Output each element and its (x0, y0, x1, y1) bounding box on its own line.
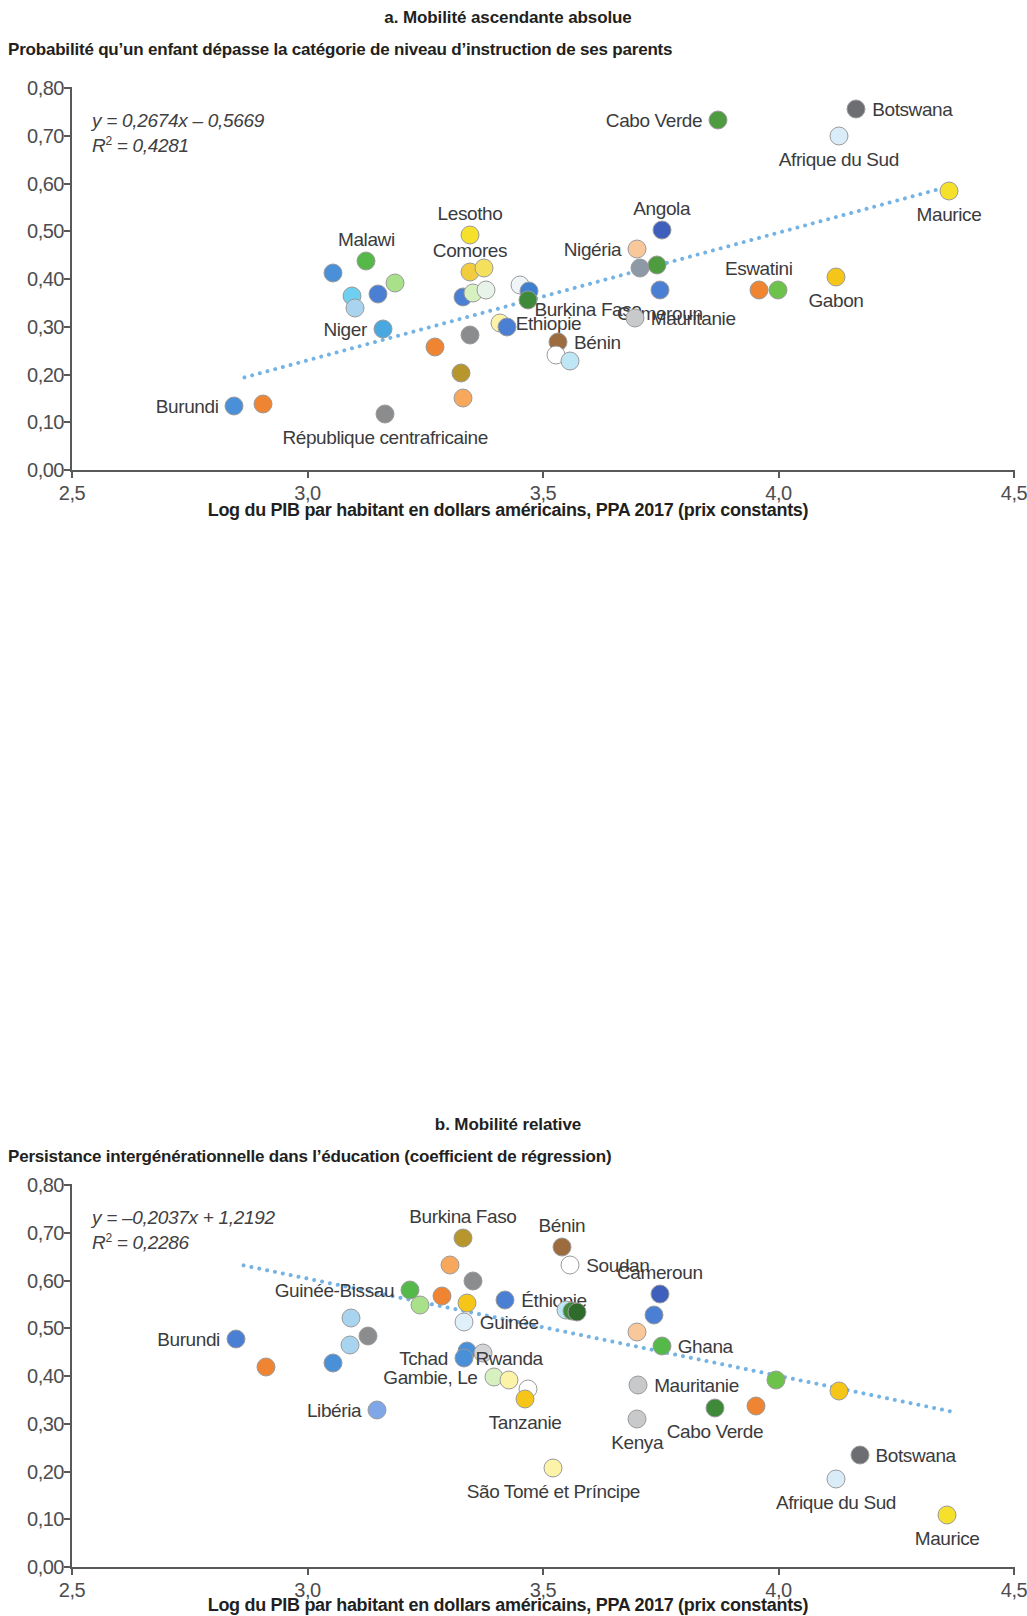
data-point-burundi[interactable] (226, 1329, 245, 1348)
point-label-maurice: Maurice (915, 1529, 980, 1548)
data-point-b-27[interactable] (567, 1302, 586, 1321)
point-label-guin-e: Guinée (480, 1313, 539, 1332)
data-point-b-37[interactable] (767, 1370, 786, 1389)
data-point-maurice[interactable] (940, 181, 959, 200)
data-point-a-30[interactable] (647, 255, 666, 274)
y-tick-mark-a-6 (64, 374, 72, 376)
point-label-s-o-tom-et-pr-ncipe: São Tomé et Príncipe (467, 1481, 640, 1500)
data-point-b-3[interactable] (341, 1308, 360, 1327)
data-point-b-36[interactable] (746, 1396, 765, 1415)
y-tick-label-a-7: 0,10 (2, 411, 64, 434)
x-tick-mark-a-4 (1013, 470, 1015, 478)
data-point-b-10[interactable] (440, 1256, 459, 1275)
data-point-cameroun[interactable] (650, 280, 669, 299)
data-point-burkina-faso[interactable] (453, 1228, 472, 1247)
data-point-s-o-tom-et-pr-ncipe[interactable] (544, 1458, 563, 1477)
data-point-a-24[interactable] (518, 291, 537, 310)
data-point-a-19[interactable] (460, 325, 479, 344)
data-point-kenya[interactable] (628, 1409, 647, 1428)
point-label-botswana: Botswana (872, 99, 952, 118)
y-tick-mark-b-3 (64, 1327, 72, 1329)
data-point-b-6[interactable] (358, 1327, 377, 1346)
data-point-b-8[interactable] (410, 1296, 429, 1315)
data-point-a-15[interactable] (475, 259, 494, 278)
data-point-a-10[interactable] (425, 338, 444, 357)
data-point-b-33[interactable] (644, 1305, 663, 1324)
data-point-botswana[interactable] (847, 99, 866, 118)
x-tick-mark-a-1 (307, 470, 309, 478)
y-tick-label-a-3: 0,50 (2, 220, 64, 243)
y-tick-label-b-7: 0,10 (2, 1508, 64, 1531)
data-point-a-29[interactable] (630, 259, 649, 278)
data-point-rwanda[interactable] (500, 1370, 519, 1389)
data-point-a-27[interactable] (561, 352, 580, 371)
data-point-burundi[interactable] (225, 396, 244, 415)
point-label-b-nin: Bénin (574, 333, 621, 352)
data-point-b-29[interactable] (628, 1323, 647, 1342)
point-label-burkina-faso: Burkina Faso (409, 1206, 516, 1225)
data-point-a-3[interactable] (324, 264, 343, 283)
y-tick-mark-a-2 (64, 183, 72, 185)
panel-mobilite-relative: b. Mobilité relative Persistance intergé… (0, 545, 1016, 1081)
data-point-maurice[interactable] (938, 1506, 957, 1525)
data-point-eswatini[interactable] (749, 280, 768, 299)
data-point-afrique-du-sud[interactable] (829, 126, 848, 145)
data-point-a-36[interactable] (768, 280, 787, 299)
data-point-a-1[interactable] (253, 395, 272, 414)
point-label-mauritanie: Mauritanie (654, 1375, 739, 1394)
data-point-lib-ria[interactable] (368, 1401, 387, 1420)
data-point-mauritanie[interactable] (625, 309, 644, 328)
data-point-b-4[interactable] (340, 1335, 359, 1354)
point-label-burundi: Burundi (157, 1329, 220, 1348)
data-point-angola[interactable] (652, 220, 671, 239)
data-point-a-5[interactable] (345, 298, 364, 317)
data-point-cabo-verde[interactable] (705, 1399, 724, 1418)
data-point-r-publique-centrafricaine[interactable] (376, 404, 395, 423)
data-point-cameroun[interactable] (650, 1284, 669, 1303)
data-point-malawi[interactable] (357, 252, 376, 271)
data-point-a-7[interactable] (385, 273, 404, 292)
data-point-b-9[interactable] (432, 1286, 451, 1305)
data-point-cabo-verde[interactable] (709, 110, 728, 129)
data-point-mauritanie[interactable] (629, 1375, 648, 1394)
data-point-b-12[interactable] (464, 1272, 483, 1291)
data-point--thiopie[interactable] (496, 1290, 515, 1309)
x-axis-title-a: Log du PIB par habitant en dollars améri… (0, 500, 1016, 521)
data-point-afrique-du-sud[interactable] (826, 1469, 845, 1488)
regression-equation-b: y = –0,2037x + 1,2192 (92, 1207, 275, 1229)
data-point-a-18[interactable] (477, 280, 496, 299)
x-tick-mark-a-3 (778, 470, 780, 478)
y-tick-mark-b-1 (64, 1232, 72, 1234)
y-tick-mark-b-4 (64, 1375, 72, 1377)
data-point-ghana[interactable] (652, 1337, 671, 1356)
point-label-afrique-du-sud: Afrique du Sud (776, 1492, 896, 1511)
data-point-b-38[interactable] (829, 1382, 848, 1401)
data-point-a-11[interactable] (451, 364, 470, 383)
y-tick-mark-b-0 (64, 1184, 72, 1186)
point-label-lesotho: Lesotho (438, 204, 503, 223)
data-point-a-6[interactable] (369, 285, 388, 304)
data-point-b-1[interactable] (257, 1358, 276, 1377)
r-squared-b: R2 = 0,2286 (92, 1231, 189, 1254)
data-point-a-21[interactable] (497, 317, 516, 336)
data-point-guin-e[interactable] (454, 1313, 473, 1332)
x-axis-title-b: Log du PIB par habitant en dollars améri… (0, 1595, 1016, 1616)
data-point-b-nin[interactable] (552, 1238, 571, 1257)
data-point-botswana[interactable] (850, 1445, 869, 1464)
data-point-a-12[interactable] (453, 389, 472, 408)
data-point-tanzanie[interactable] (516, 1389, 535, 1408)
data-point-soudan[interactable] (561, 1256, 580, 1275)
y-tick-mark-b-7 (64, 1518, 72, 1520)
data-point-nig-ria[interactable] (628, 240, 647, 259)
data-point-b-13[interactable] (457, 1294, 476, 1313)
y-tick-label-b-8: 0,00 (2, 1556, 64, 1579)
data-point-tchad[interactable] (454, 1348, 473, 1367)
y-tick-mark-a-0 (64, 87, 72, 89)
y-tick-mark-a-4 (64, 278, 72, 280)
point-label-kenya: Kenya (611, 1432, 663, 1451)
data-point-niger[interactable] (373, 320, 392, 339)
y-tick-label-a-2: 0,60 (2, 172, 64, 195)
y-tick-label-b-0: 0,80 (2, 1174, 64, 1197)
data-point-b-2[interactable] (324, 1353, 343, 1372)
data-point-gabon[interactable] (826, 267, 845, 286)
